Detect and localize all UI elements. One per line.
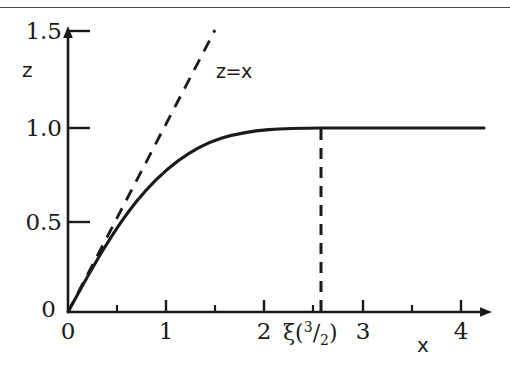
y-tick-label-1.5: 1.5 xyxy=(6,20,62,43)
axes-group xyxy=(63,26,492,317)
xi-suffix-text: ) xyxy=(329,320,338,345)
xi-denominator-text: 2 xyxy=(320,332,329,348)
y-tick-label-0.5: 0.5 xyxy=(6,211,62,234)
y-axis-title: z xyxy=(22,60,33,80)
series-z-of-x-curve xyxy=(68,128,484,312)
x-tick-label-xi-critical: ξ(3/2) xyxy=(283,320,338,347)
y-tick-label-1.0: 1.0 xyxy=(6,117,62,140)
xi-prefix-text: ξ( xyxy=(283,320,304,345)
x-tick-label-2: 2 xyxy=(248,320,280,343)
y-tick-marks xyxy=(68,31,90,222)
xi-numerator-text: 3 xyxy=(304,319,313,335)
x-tick-label-0: 0 xyxy=(52,320,84,343)
figure-canvas: 1.5 1.0 0.5 0 z 0 1 2 3 4 ξ(3/2) x z=x xyxy=(0,0,510,367)
line-annotation-z-equals-x: z=x xyxy=(216,62,252,81)
x-tick-label-4: 4 xyxy=(445,320,477,343)
x-axis-title: x xyxy=(417,335,429,355)
plot-area xyxy=(0,0,510,367)
xi-slash-text: / xyxy=(313,320,320,345)
x-axis-arrowhead xyxy=(480,307,492,317)
x-tick-label-3: 3 xyxy=(347,320,379,343)
x-tick-label-1: 1 xyxy=(150,320,182,343)
y-tick-label-0: 0 xyxy=(24,298,56,321)
